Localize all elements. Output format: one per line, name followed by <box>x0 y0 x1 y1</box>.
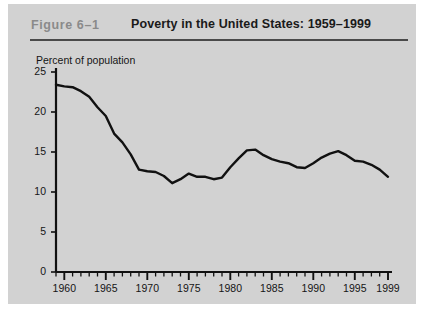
x-tick-label: 1975 <box>169 282 209 294</box>
y-tick-label: 20 <box>20 105 46 117</box>
chart-data-line <box>56 85 388 183</box>
x-tick-label: 1999 <box>368 282 408 294</box>
chart-plot-area: 0510152025 19601965197019751980198519901… <box>8 4 416 304</box>
chart-axes <box>56 68 392 272</box>
x-tick-label: 1980 <box>210 282 250 294</box>
chart-ticks <box>51 72 388 280</box>
y-tick-label: 25 <box>20 65 46 77</box>
y-tick-label: 5 <box>20 225 46 237</box>
poverty-line-chart <box>8 4 416 304</box>
x-tick-label: 1970 <box>127 282 167 294</box>
y-tick-label: 10 <box>20 185 46 197</box>
x-tick-label: 1960 <box>44 282 84 294</box>
figure-root: Figure 6–1 Poverty in the United States:… <box>0 0 424 314</box>
figure-panel: Figure 6–1 Poverty in the United States:… <box>8 4 416 304</box>
y-tick-label: 15 <box>20 145 46 157</box>
x-tick-label: 1985 <box>252 282 292 294</box>
y-tick-label: 0 <box>20 265 46 277</box>
x-tick-label: 1990 <box>293 282 333 294</box>
x-tick-label: 1965 <box>86 282 126 294</box>
series-poverty-rate <box>56 85 388 183</box>
